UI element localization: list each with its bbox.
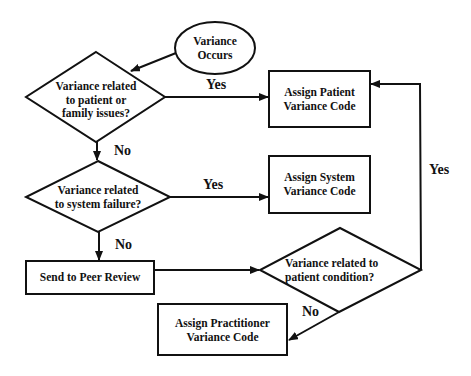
assign-practitioner-line2: Variance Code [158, 331, 287, 345]
decision-system-label: Variance related to system failure? [43, 184, 153, 211]
peer-review-line1: Send to Peer Review [26, 271, 154, 285]
edge-start-to-q1 [131, 53, 176, 71]
assign-practitioner-line1: Assign Practitioner [158, 317, 287, 331]
q3-line2: patient condition? [285, 271, 395, 285]
q2-line1: Variance related [43, 184, 153, 198]
decision-patient-condition-label: Variance related to patient condition? [285, 257, 395, 284]
q1-line3: family issues? [46, 107, 146, 121]
q3-line1: Variance related to [285, 257, 395, 271]
decision-patient-family-label: Variance related to patient or family is… [46, 80, 146, 121]
start-label-line1: Variance [175, 35, 255, 49]
start-label-line2: Occurs [175, 49, 255, 63]
edge-q1-no-label: No [114, 143, 131, 159]
edge-q2-yes-label: Yes [203, 177, 223, 193]
q1-line1: Variance related [46, 80, 146, 94]
assign-system-line1: Assign System [269, 171, 370, 185]
assign-patient-line1: Assign Patient [269, 86, 370, 100]
start-label: Variance Occurs [175, 35, 255, 62]
q2-line2: to system failure? [43, 198, 153, 212]
edge-q3-yes [371, 84, 421, 270]
assign-system-line2: Variance Code [269, 185, 370, 199]
assign-system-label: Assign System Variance Code [269, 171, 370, 198]
edge-q1-yes-label: Yes [206, 77, 226, 93]
assign-practitioner-label: Assign Practitioner Variance Code [158, 317, 287, 344]
assign-patient-line2: Variance Code [269, 100, 370, 114]
q1-line2: to patient or [46, 94, 146, 108]
edge-q3-yes-label: Yes [429, 162, 449, 178]
peer-review-label: Send to Peer Review [26, 271, 154, 285]
edge-q3-no-label: No [302, 304, 319, 320]
assign-patient-label: Assign Patient Variance Code [269, 86, 370, 113]
edge-q2-no-label: No [115, 237, 132, 253]
